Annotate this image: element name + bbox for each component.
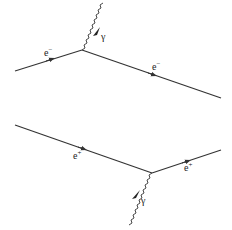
top-diagram: e− e− γ [15, 3, 221, 98]
photon-arrow-icon [132, 190, 140, 199]
photon-label: γ [140, 195, 146, 206]
emitted-photon-wave [82, 3, 103, 50]
photon-arrow-icon [93, 27, 100, 36]
incoming-positron-label: e+ [73, 149, 81, 161]
bottom-diagram: e+ e+ γ [15, 125, 221, 225]
photon-label: γ [100, 31, 106, 42]
outgoing-electron-label: e− [152, 60, 160, 72]
feynman-diagrams: e− e− γ e+ e+ γ [0, 0, 232, 230]
incoming-electron-label: e− [44, 46, 52, 58]
outgoing-positron-label: e+ [184, 161, 192, 173]
